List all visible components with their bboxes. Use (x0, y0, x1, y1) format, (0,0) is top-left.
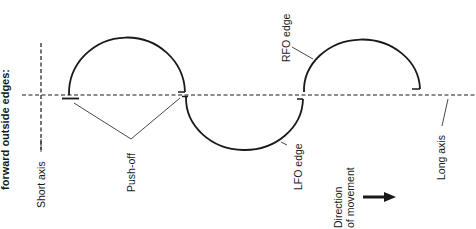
push-off-leader (74, 98, 180, 139)
rfo-edge-arc-1 (69, 38, 185, 95)
push-off-label: Push-off (125, 153, 137, 192)
lfo-edge-leader (281, 142, 287, 145)
diagram-title: forward outside edges: (0, 69, 11, 190)
direction-label-line1: Direction (332, 186, 344, 228)
rfo-edge-leader (292, 47, 313, 59)
short-axis-label: Short axis (35, 161, 47, 208)
direction-label-line2: of movement (344, 167, 356, 228)
lfo-edge-label: LFO edge (292, 143, 304, 190)
skating-edges-diagram: forward outside edges: Short axis Push-o… (0, 0, 476, 229)
rfo-edge-arc-2 (304, 40, 420, 92)
long-axis-label: Long axis (435, 135, 447, 180)
rfo-edge-label: RFO edge (280, 13, 292, 62)
lfo-edge-arc (186, 97, 303, 150)
direction-arrow-icon (363, 192, 396, 202)
long-axis-leader (442, 99, 448, 126)
